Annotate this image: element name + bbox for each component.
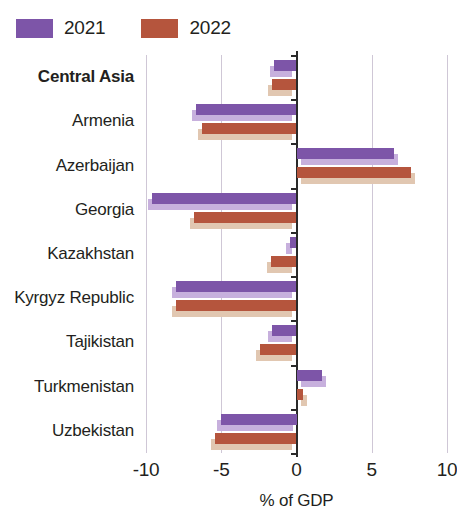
chart-row: Uzbekistan [146,409,447,453]
bar-2022 [297,389,303,400]
bar-2022 [271,256,297,267]
category-label: Kazakhstan [47,244,134,264]
chart-row: Georgia [146,188,447,232]
chart-row: Kazakhstan [146,232,447,276]
bar-2021 [274,60,297,71]
category-label: Georgia [75,200,134,220]
chart-row: Armenia [146,99,447,143]
axis-tick [291,232,297,234]
bar-2022 [297,167,411,178]
axis-tick [291,55,297,57]
axis-tick [291,99,297,101]
plot-area: -10-50510Central AsiaArmeniaAzerbaijanGe… [146,55,447,453]
chart-row: Azerbaijan [146,143,447,187]
bar-2022 [176,300,296,311]
bar-2021 [297,148,395,159]
category-label: Uzbekistan [52,421,134,441]
axis-tick [291,188,297,190]
bar-2022 [272,79,296,90]
axis-tick [291,365,297,367]
bar-2021 [221,414,296,425]
axis-tick [291,453,297,455]
x-axis-title: % of GDP [146,491,447,509]
category-label: Azerbaijan [56,156,134,176]
x-axis-tick-label: -5 [213,459,229,481]
x-axis-tick-label: 0 [291,459,301,481]
gridline [447,55,448,453]
category-label: Turkmenistan [34,377,134,397]
bar-2022 [202,123,297,134]
x-axis-tick-label: 5 [367,459,377,481]
chart-row: Turkmenistan [146,365,447,409]
chart-row: Kyrgyz Republic [146,276,447,320]
category-label: Central Asia [38,67,134,87]
bar-2021 [196,104,297,115]
bar-2021 [272,325,296,336]
bar-2021 [176,281,296,292]
bar-2021 [290,237,296,248]
chart-row: Central Asia [146,55,447,99]
axis-tick [291,409,297,411]
axis-tick [291,320,297,322]
category-label: Tajikistan [66,332,134,352]
axis-tick [291,143,297,145]
axis-tick [291,276,297,278]
bar-2021 [297,370,323,381]
x-axis-tick-label: -10 [133,459,160,481]
bar-2022 [215,433,296,444]
x-axis-tick-label: 10 [437,459,457,481]
chart-row: Tajikistan [146,320,447,364]
bar-2022 [194,212,296,223]
category-label: Kyrgyz Republic [14,288,134,308]
category-label: Armenia [72,111,134,131]
bar-2022 [260,344,296,355]
bar-2021 [152,193,296,204]
